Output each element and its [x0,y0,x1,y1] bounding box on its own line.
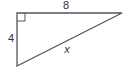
left-side-label: 4 [8,32,14,44]
hypotenuse-label: x [63,43,70,55]
right-angle-marker [17,13,25,21]
top-side-label: 8 [63,0,69,11]
right-triangle-diagram: 8 4 x [0,0,133,76]
triangle-shape [17,13,122,66]
